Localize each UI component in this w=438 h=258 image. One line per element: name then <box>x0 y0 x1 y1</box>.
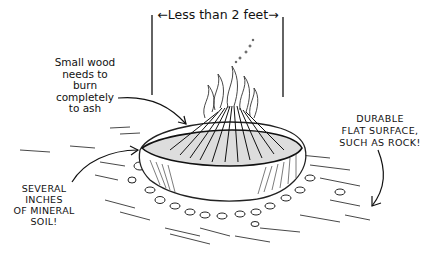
surface-annotation: DURABLE FLAT SURFACE, SUCH AS ROCK! <box>322 113 438 149</box>
soil-annotation: SEVERAL INCHES OF MINERAL SOIL! <box>6 183 82 227</box>
dimension-lines <box>152 15 283 97</box>
dimension-label: ←Less than 2 feet→ <box>150 8 286 21</box>
mound-fire-illustration: ←Less than 2 feet→ Small wood needs to b… <box>0 0 438 258</box>
soil-mound <box>139 122 305 201</box>
flames <box>204 39 258 118</box>
wood-annotation: Small wood needs to burn completely to a… <box>40 57 130 115</box>
